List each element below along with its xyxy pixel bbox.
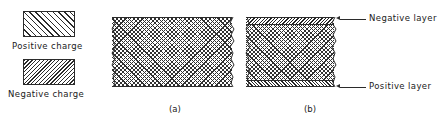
negative-layer-label: Negative layer: [369, 13, 437, 23]
annotation-positive-layer: Positive layer: [0, 60, 446, 105]
slab-b-caption: (b): [304, 104, 316, 114]
positive-layer-label: Positive layer: [369, 81, 431, 91]
positive-layer-leader-line: [340, 87, 366, 88]
charge-layer-figure: Positive charge Negative charge (a): [0, 0, 446, 124]
negative-layer-leader-line: [340, 19, 366, 20]
annotation-negative-layer: Negative layer: [0, 0, 446, 40]
